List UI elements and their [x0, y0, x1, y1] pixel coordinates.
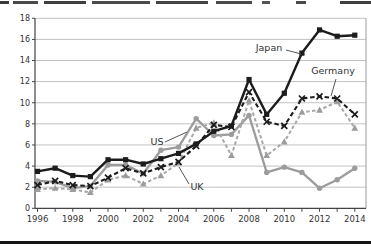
x-axis-label: 2004 — [168, 214, 190, 224]
data-point-us — [299, 170, 304, 175]
data-point-japan — [158, 156, 163, 161]
data-point-uk — [157, 172, 164, 178]
y-axis-label: 14 — [20, 56, 30, 65]
data-point-japan — [317, 27, 322, 32]
data-point-uk — [316, 107, 323, 113]
data-point-japan — [246, 77, 251, 82]
x-axis-label: 2002 — [132, 214, 154, 224]
series-label-uk: UK — [190, 181, 204, 192]
chart-canvas: 0246810121416181996199820002002200420062… — [0, 5, 371, 246]
label-leader-uk — [179, 167, 189, 184]
data-point-japan — [352, 33, 357, 38]
data-point-us — [282, 164, 287, 169]
data-point-japan — [264, 112, 269, 117]
x-axis-label: 1998 — [62, 214, 84, 224]
y-axis-label: 6 — [25, 141, 30, 150]
line-chart: 0246810121416181996199820002002200420062… — [0, 5, 371, 241]
data-point-uk — [299, 109, 306, 115]
data-point-us — [334, 177, 339, 182]
data-point-japan — [70, 173, 75, 178]
x-axis-label: 2010 — [273, 214, 295, 224]
series-label-germany: Germany — [311, 65, 355, 76]
y-axis-label: 18 — [20, 14, 30, 23]
y-axis-label: 8 — [25, 120, 30, 129]
data-point-japan — [194, 141, 199, 146]
y-axis-label: 2 — [25, 183, 30, 192]
data-point-japan — [176, 151, 181, 156]
data-point-japan — [88, 174, 93, 179]
y-axis-label: 16 — [20, 35, 30, 44]
y-axis-label: 4 — [25, 162, 30, 171]
data-point-japan — [141, 161, 146, 166]
data-point-japan — [123, 157, 128, 162]
y-axis-label: 10 — [20, 99, 30, 108]
data-point-us — [229, 132, 234, 137]
series-germany-line — [38, 92, 355, 186]
data-point-us — [317, 186, 322, 191]
data-point-japan — [335, 34, 340, 39]
x-axis-label: 1996 — [27, 214, 49, 224]
data-point-japan — [299, 51, 304, 56]
data-point-japan — [35, 169, 40, 174]
x-axis-label: 2012 — [309, 214, 331, 224]
x-axis-label: 2014 — [344, 214, 366, 224]
data-point-uk — [122, 172, 129, 178]
data-point-us — [264, 170, 269, 175]
data-point-us — [352, 165, 357, 170]
data-point-japan — [282, 91, 287, 96]
x-axis-label: 2000 — [97, 214, 119, 224]
x-axis-label: 2006 — [203, 214, 225, 224]
y-axis-label: 12 — [20, 77, 30, 86]
series-japan-line — [38, 30, 355, 177]
data-point-japan — [53, 166, 58, 171]
data-point-japan — [229, 123, 234, 128]
label-leader-japan — [286, 50, 301, 54]
data-point-us — [193, 116, 198, 121]
data-point-japan — [105, 157, 110, 162]
y-axis-label: 0 — [25, 204, 30, 213]
data-point-us — [246, 113, 251, 118]
figure-bottom-rule — [0, 241, 371, 244]
series-label-us: US — [151, 136, 164, 147]
x-axis-label: 2008 — [238, 214, 260, 224]
data-point-germany — [352, 111, 358, 117]
data-point-japan — [211, 129, 216, 134]
data-point-us — [158, 148, 163, 153]
data-point-us — [176, 144, 181, 149]
series-label-japan: Japan — [255, 42, 283, 53]
